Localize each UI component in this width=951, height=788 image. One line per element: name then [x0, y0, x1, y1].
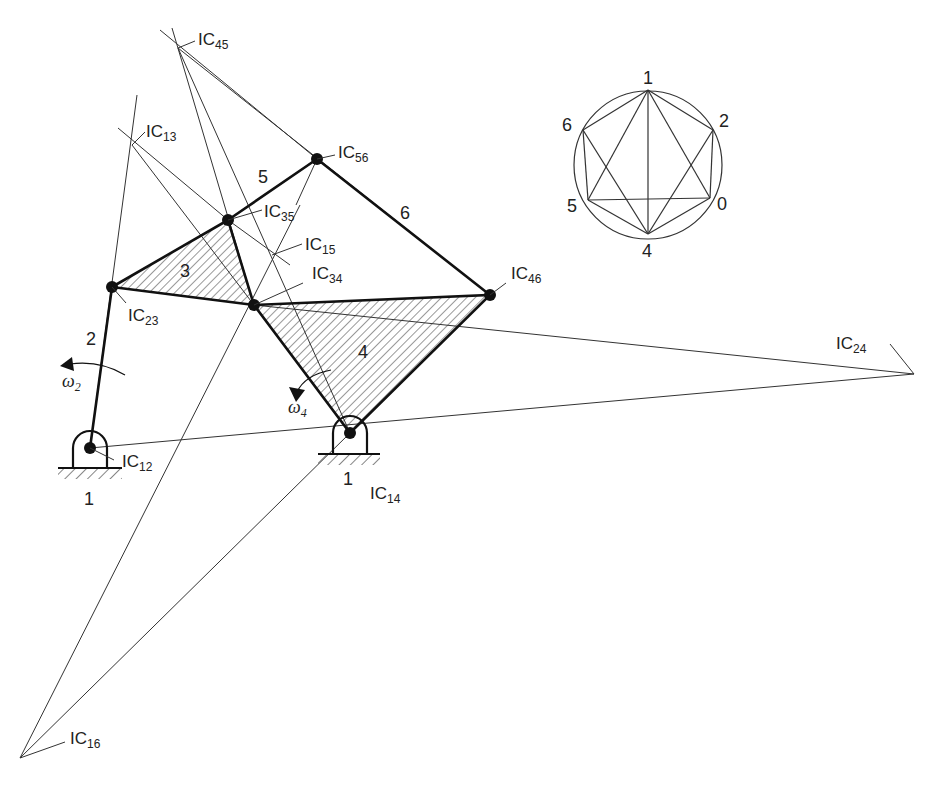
circle-node-2: 2	[719, 112, 729, 130]
ground-label-left: 1	[84, 490, 94, 508]
label-ic46: IC46	[511, 265, 541, 285]
linkage-diagram	[0, 0, 951, 788]
label-ic34: IC34	[312, 265, 342, 285]
circle-node-0: 0	[717, 195, 727, 213]
ground-label-right: 1	[343, 470, 353, 488]
joint-ic14	[344, 427, 356, 439]
circle-node-4: 4	[642, 242, 652, 260]
label-ic35: IC35	[264, 203, 294, 223]
link-label-5: 5	[258, 168, 268, 186]
circle-node-1: 1	[643, 69, 653, 87]
label-ic23: IC23	[128, 307, 158, 327]
circle-diagram	[574, 90, 722, 239]
link-6	[317, 159, 490, 295]
link-label-3: 3	[180, 262, 190, 280]
label-ic12: IC12	[122, 453, 152, 473]
label-ic45: IC45	[198, 31, 228, 51]
label-ic16: IC16	[70, 730, 100, 750]
ground-pivot-left	[58, 431, 122, 479]
link-label-4: 4	[358, 343, 368, 361]
label-ic56: IC56	[338, 144, 368, 164]
omega4-label: ω4	[288, 398, 307, 419]
circle-node-6: 6	[562, 116, 572, 134]
leader-lines	[20, 41, 914, 758]
label-ic15: IC15	[305, 236, 335, 256]
circle-node-5: 5	[567, 197, 577, 215]
link-label-6: 6	[400, 204, 410, 222]
label-ic24: IC24	[836, 335, 866, 355]
label-ic13: IC13	[146, 123, 176, 143]
label-ic14: IC14	[370, 485, 400, 505]
link-label-2: 2	[86, 330, 96, 348]
omega2-label: ω2	[62, 372, 81, 393]
